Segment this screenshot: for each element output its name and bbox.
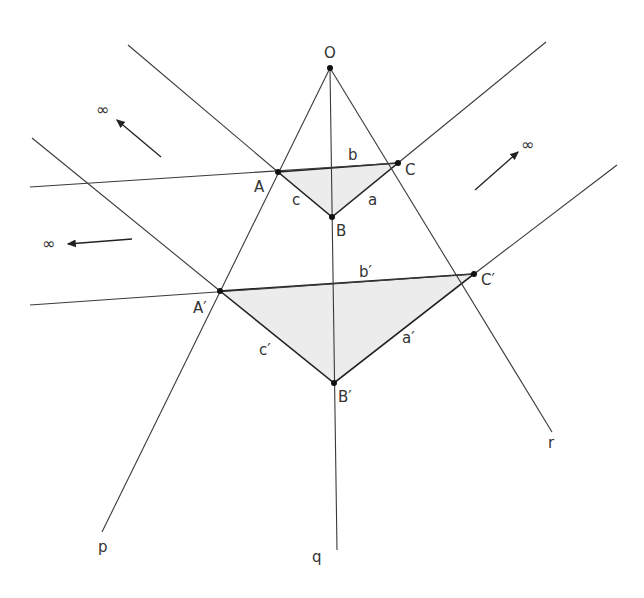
point-c (395, 160, 401, 166)
arrow-up-right-icon (475, 152, 518, 190)
label-side-b: b (348, 146, 358, 164)
label-a: A (254, 178, 265, 196)
label-b-prime: B′ (338, 388, 352, 406)
point-b (329, 214, 335, 220)
line-b-prime-c-prime-extended (474, 165, 617, 274)
infinity-left: ∞ (42, 234, 55, 253)
infinity-up-left: ∞ (96, 100, 109, 119)
label-c-prime: C′ (481, 271, 495, 289)
arrow-left-icon (68, 239, 132, 244)
label-side-b-prime: b′ (359, 263, 373, 281)
label-o: O (324, 44, 336, 62)
point-a-prime (217, 288, 223, 294)
label-c: C (405, 161, 415, 179)
label-a-prime: A′ (193, 299, 207, 317)
point-a (275, 169, 281, 175)
line-ab-extended (128, 45, 278, 172)
perspective-diagram: O A B C A′ B′ C′ b c a b′ c′ a′ p q r ∞ … (0, 0, 644, 598)
label-side-a-prime: a′ (402, 329, 415, 347)
arrow-up-left-icon (117, 120, 161, 157)
point-o (327, 65, 333, 71)
label-line-p: p (98, 538, 108, 556)
label-line-q: q (312, 548, 322, 566)
triangle-a-prime-b-prime-c-prime (220, 274, 474, 383)
label-b: B (336, 222, 346, 240)
point-c-prime (471, 271, 477, 277)
line-r (330, 68, 552, 432)
point-b-prime (331, 380, 337, 386)
infinity-up-right: ∞ (521, 135, 534, 154)
line-a-prime-b-prime-extended (32, 138, 220, 291)
label-side-c-prime: c′ (259, 341, 271, 359)
label-line-r: r (548, 434, 555, 452)
label-side-c: c (292, 191, 300, 209)
label-side-a: a (368, 191, 377, 209)
